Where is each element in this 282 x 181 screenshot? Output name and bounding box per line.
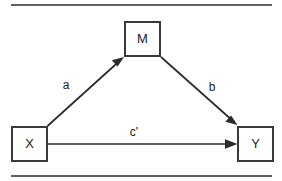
path-c-prime-arrowhead [225,139,238,149]
path-b-label: b [209,80,216,94]
path-b-line [161,57,234,122]
path-a-line [48,61,121,127]
path-c-prime-label: c' [130,125,138,139]
path-a-label: a [63,78,70,92]
node-label-outcome: Y [251,136,260,151]
node-label-predictor: X [25,136,34,151]
path-diagram-canvas: a b c' M X Y [0,0,282,181]
mediation-diagram-figure: a b c' M X Y [0,0,282,181]
node-label-mediator: M [137,31,148,46]
